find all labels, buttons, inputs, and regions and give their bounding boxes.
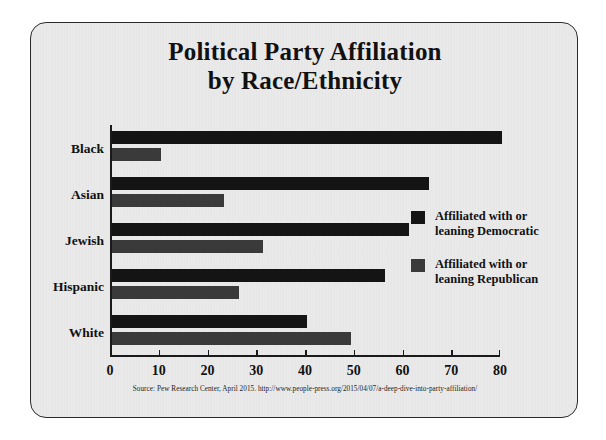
bar-republican bbox=[112, 240, 263, 253]
slide-canvas: Political Party Affiliation by Race/Ethn… bbox=[0, 0, 606, 440]
legend-item-republican: Affiliated with or leaning Republican bbox=[411, 257, 571, 289]
x-tick-label: 10 bbox=[139, 363, 179, 379]
x-tick-label: 0 bbox=[90, 363, 130, 379]
bar-democratic bbox=[112, 177, 429, 190]
legend-label-democratic-line-1: Affiliated with or bbox=[435, 209, 571, 224]
x-tick-label: 30 bbox=[236, 363, 276, 379]
x-tick bbox=[110, 350, 112, 357]
x-tick bbox=[403, 350, 405, 357]
chart-legend: Affiliated with or leaning Democratic Af… bbox=[411, 209, 571, 305]
x-tick bbox=[256, 350, 258, 357]
bar-democratic bbox=[112, 315, 307, 328]
category-label-white: White bbox=[30, 325, 104, 341]
x-tick-label: 70 bbox=[431, 363, 471, 379]
x-tick bbox=[208, 350, 210, 357]
chart-title-line-2: by Race/Ethnicity bbox=[31, 66, 578, 95]
category-label-asian: Asian bbox=[30, 187, 104, 203]
category-label-black: Black bbox=[30, 141, 104, 157]
x-tick-label: 20 bbox=[188, 363, 228, 379]
legend-item-democratic: Affiliated with or leaning Democratic bbox=[411, 209, 571, 241]
legend-label-republican-line-2: leaning Republican bbox=[435, 272, 571, 287]
x-tick-label: 50 bbox=[334, 363, 374, 379]
x-tick-label: 40 bbox=[285, 363, 325, 379]
legend-swatch-democratic-icon bbox=[411, 211, 425, 224]
x-tick bbox=[305, 350, 307, 357]
chart-title-line-1: Political Party Affiliation bbox=[31, 37, 578, 66]
bar-republican bbox=[112, 148, 161, 161]
category-label-jewish: Jewish bbox=[30, 233, 104, 249]
bar-republican bbox=[112, 194, 224, 207]
x-tick bbox=[499, 350, 501, 357]
bar-democratic bbox=[112, 223, 409, 236]
legend-label-democratic-line-2: leaning Democratic bbox=[435, 224, 571, 239]
category-label-hispanic: Hispanic bbox=[30, 279, 104, 295]
x-tick bbox=[354, 350, 356, 357]
x-tick-label: 80 bbox=[480, 363, 520, 379]
x-tick-label: 60 bbox=[383, 363, 423, 379]
legend-swatch-republican-icon bbox=[411, 259, 425, 272]
chart-title: Political Party Affiliation by Race/Ethn… bbox=[31, 37, 578, 95]
source-citation: Source: Pew Research Center, April 2015.… bbox=[31, 385, 578, 393]
bar-republican bbox=[112, 332, 351, 345]
bar-democratic bbox=[112, 269, 385, 282]
bar-republican bbox=[112, 286, 239, 299]
chart-frame: Political Party Affiliation by Race/Ethn… bbox=[30, 22, 578, 418]
x-tick bbox=[159, 350, 161, 357]
legend-label-republican-line-1: Affiliated with or bbox=[435, 257, 571, 272]
bar-democratic bbox=[112, 131, 502, 144]
x-tick bbox=[451, 350, 453, 357]
